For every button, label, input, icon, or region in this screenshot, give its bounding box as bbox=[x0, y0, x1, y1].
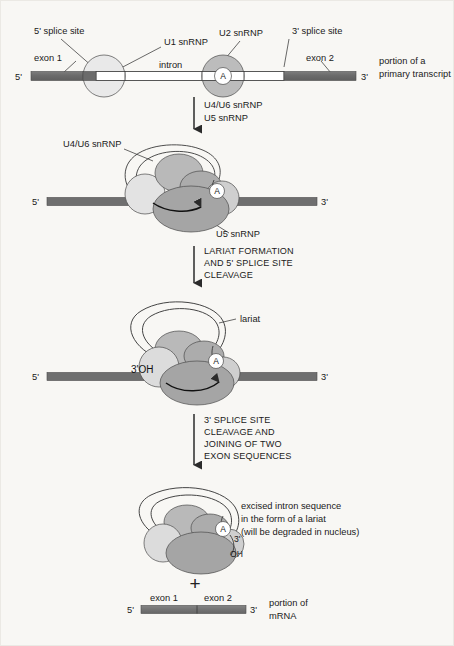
product-5prime-label: 5' bbox=[127, 605, 134, 615]
branch-point-label-stage4: A bbox=[220, 524, 226, 534]
note-excised-intron-line3: (will be degraded in nucleus) bbox=[241, 527, 359, 537]
arrow2-label-line1: LARIAT FORMATION bbox=[204, 246, 294, 256]
product-group: 5' 3' exon 1 exon 2 portion of mRNA bbox=[127, 593, 308, 621]
label-u46-snrnp: U4/U6 snRNP bbox=[63, 139, 121, 149]
caption-primary-transcript-line1: portion of a bbox=[379, 56, 426, 66]
branch-point-label: A bbox=[220, 71, 226, 81]
product-3prime-label: 3' bbox=[250, 605, 257, 615]
arrow2-label-line3: CLEAVAGE bbox=[204, 270, 253, 280]
stage3-5prime-label: 5' bbox=[32, 372, 39, 382]
exon1-over-u1 bbox=[83, 72, 96, 81]
splicing-diagram: A 5' 3' 5' splice site U1 snRNP U2 snRNP… bbox=[0, 0, 454, 646]
stage1-group: A 5' 3' 5' splice site U1 snRNP U2 snRNP… bbox=[15, 26, 451, 97]
leader-3-splice-site bbox=[284, 39, 289, 67]
label-exon1: exon 1 bbox=[34, 53, 62, 63]
stage4-group: A 3' OH excised intron sequence in the f… bbox=[139, 488, 359, 594]
branch-point-label-stage2: A bbox=[214, 186, 220, 196]
stage1-5prime-label: 5' bbox=[15, 72, 22, 82]
arrow3-label-line1: 3' SPLICE SITE bbox=[204, 415, 271, 425]
arrow1-label-line2: U5 snRNP bbox=[204, 113, 248, 123]
leader-u1-snrnp bbox=[119, 47, 161, 69]
exon2-bar bbox=[284, 72, 356, 81]
stage2-5prime-label: 5' bbox=[32, 197, 39, 207]
mrna-bar bbox=[141, 606, 246, 614]
caption-mrna-line1: portion of bbox=[269, 598, 308, 608]
label-5-splice-site: 5' splice site bbox=[34, 26, 84, 36]
u5-snrnp-blob-stage4 bbox=[166, 532, 236, 574]
stage2-3prime-label: 3' bbox=[321, 197, 328, 207]
u5-snrnp-blob-stage3 bbox=[160, 361, 234, 405]
arrow1-group: U4/U6 snRNP U5 snRNP bbox=[194, 97, 262, 129]
label-lariat: lariat bbox=[240, 314, 261, 324]
label-u2-snrnp: U2 snRNP bbox=[219, 28, 263, 38]
leader-lariat bbox=[219, 319, 236, 323]
arrow1-label-line1: U4/U6 snRNP bbox=[204, 100, 262, 110]
stage3-3prime-label: 3' bbox=[321, 372, 328, 382]
arrow2-group: LARIAT FORMATION AND 5' SPLICE SITE CLEA… bbox=[194, 246, 294, 283]
note-excised-intron-line1: excised intron sequence bbox=[241, 501, 341, 511]
label-u1-snrnp: U1 snRNP bbox=[164, 37, 208, 47]
stage4-3prime-label: 3' bbox=[234, 534, 241, 544]
arrow3-label-line3: JOINING OF TWO bbox=[204, 439, 282, 449]
caption-mrna-line2: mRNA bbox=[269, 611, 297, 621]
note-excised-intron-line2: in the form of a lariat bbox=[241, 514, 326, 524]
label-exon2: exon 2 bbox=[306, 53, 334, 63]
product-exon1-label: exon 1 bbox=[150, 593, 178, 603]
plus-sign: + bbox=[189, 573, 200, 594]
arrow3-label-line4: EXON SEQUENCES bbox=[204, 451, 292, 461]
arrow2-label-line2: AND 5' SPLICE SITE bbox=[204, 258, 293, 268]
leader-u46-snrnp bbox=[124, 149, 153, 161]
caption-primary-transcript-line2: primary transcript bbox=[379, 69, 451, 79]
branch-point-label-stage3: A bbox=[213, 356, 219, 366]
label-3-splice-site: 3' splice site bbox=[292, 26, 342, 36]
intron-over-u1 bbox=[96, 72, 125, 81]
stage4-oh-label: OH bbox=[230, 549, 243, 559]
arrow3-label-line2: CLEAVAGE AND bbox=[204, 427, 275, 437]
stage2-group: A U4/U6 snRNP U5 snRNP 5' 3' bbox=[32, 139, 328, 239]
label-u5-snrnp: U5 snRNP bbox=[216, 229, 260, 239]
label-intron: intron bbox=[159, 60, 182, 70]
stage1-3prime-label: 3' bbox=[361, 72, 368, 82]
product-exon2-label: exon 2 bbox=[204, 593, 232, 603]
label-3-oh-stage3: 3'OH bbox=[131, 364, 153, 375]
leader-exon1 bbox=[63, 61, 76, 73]
arrow3-group: 3' SPLICE SITE CLEAVAGE AND JOINING OF T… bbox=[194, 414, 292, 465]
stage3-group: A lariat 3'OH 5' 3' bbox=[32, 302, 328, 405]
